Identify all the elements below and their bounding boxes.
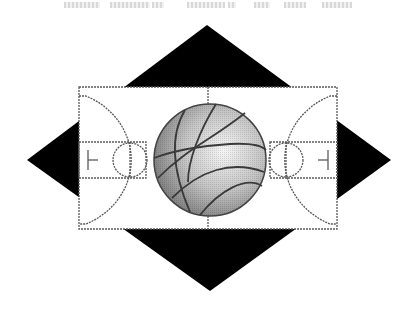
basketball-logo (0, 0, 417, 316)
basketball-icon (154, 104, 266, 216)
